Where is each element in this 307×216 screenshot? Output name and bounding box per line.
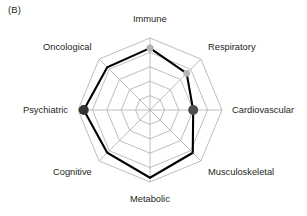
axis-label-immune: Immune: [133, 15, 167, 24]
grid-spokes: [78, 38, 222, 182]
axis-label-metabolic: Metabolic: [130, 195, 170, 204]
axis-label-cardiovascular: Cardiovascular: [232, 106, 294, 115]
axis-label-cognitive: Cognitive: [53, 168, 92, 177]
radar-chart-figure: (B) Immune Respiratory Cardiovascular Mu…: [0, 0, 307, 216]
axis-label-psychiatric: Psychiatric: [23, 106, 68, 115]
axis-label-musculoskeletal: Musculoskeletal: [208, 168, 274, 177]
axis-label-oncological: Oncological: [43, 43, 92, 52]
series-polyline: [84, 48, 193, 178]
axis-label-respiratory: Respiratory: [208, 43, 256, 52]
